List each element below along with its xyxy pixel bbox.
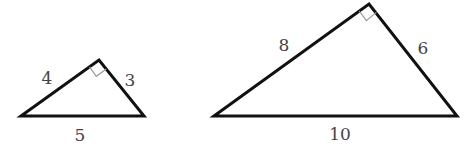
large-hypotenuse-label: 10 [329, 124, 351, 144]
large-triangle: 8 6 10 [214, 4, 457, 144]
large-left-leg-label: 8 [279, 35, 290, 55]
small-triangle: 4 3 5 [21, 60, 144, 145]
large-right-leg-label: 6 [418, 38, 429, 58]
triangles-diagram: 4 3 5 8 6 10 [0, 0, 475, 152]
small-hypotenuse-label: 5 [75, 125, 86, 145]
large-triangle-outline [214, 4, 457, 116]
small-right-leg-label: 3 [125, 70, 136, 90]
small-left-leg-label: 4 [42, 68, 53, 88]
